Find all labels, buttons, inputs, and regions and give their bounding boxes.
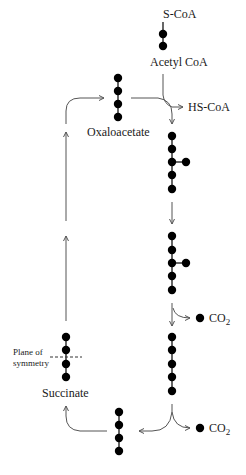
carbon-atom <box>115 434 123 442</box>
co2-label-2: CO2 <box>209 421 230 437</box>
citrate-molecule <box>168 132 190 193</box>
to-succinate-arrow <box>66 406 107 431</box>
carbon-atom <box>115 421 123 429</box>
co2-release-arrow-2 <box>172 404 190 428</box>
co2-carbon-atom <box>196 314 204 322</box>
plane-of-symmetry-label-line2: symmetry <box>13 358 49 368</box>
co2-label-1: CO2 <box>209 311 230 327</box>
carbon-atom <box>182 259 190 267</box>
carbon-atom <box>168 346 176 354</box>
carbon-atom <box>159 30 167 38</box>
carbon-atom <box>114 100 122 108</box>
carbon-atom <box>168 259 176 267</box>
co2-carbon-atom <box>196 424 204 432</box>
isocitrate-molecule <box>168 232 190 294</box>
carbon-atom <box>168 373 176 381</box>
s-coa-label: S-CoA <box>163 7 197 21</box>
carbon-atom <box>168 387 176 395</box>
succinate-molecule: Plane of symmetry Succinate <box>13 333 89 400</box>
carbon-atom <box>168 246 176 254</box>
carbon-atom <box>115 408 123 416</box>
carbon-atom <box>168 171 176 179</box>
carbon-atom <box>182 158 190 166</box>
carbon-atom <box>168 132 176 140</box>
alpha-ketoglutarate-molecule <box>168 333 176 395</box>
carbon-atom <box>114 113 122 121</box>
hs-coa-label: HS-CoA <box>188 100 230 114</box>
carbon-atom <box>168 185 176 193</box>
acetyl-coa-molecule: S-CoA Acetyl CoA <box>150 7 208 69</box>
oxaloacetate-label: Oxaloacetate <box>87 125 150 139</box>
carbon-atom <box>62 373 70 381</box>
carbon-atom <box>115 447 123 455</box>
citric-acid-cycle-diagram: S-CoA Acetyl CoA HS-CoA Oxaloacetate <box>0 0 246 475</box>
carbon-atom <box>168 333 176 341</box>
to-oxaloacetate-arrow <box>66 98 104 124</box>
carbon-atom <box>159 42 167 50</box>
carbon-atom <box>168 360 176 368</box>
carbon-atom <box>62 360 70 368</box>
carbon-atom <box>168 272 176 280</box>
hs-coa-release-arrow <box>163 74 183 107</box>
carbon-atom <box>114 74 122 82</box>
carbon-atom <box>168 158 176 166</box>
acetyl-coa-label: Acetyl CoA <box>150 55 208 69</box>
carbon-atom <box>168 232 176 240</box>
carbon-atom <box>62 333 70 341</box>
carbon-atom <box>168 286 176 294</box>
plane-of-symmetry-label-line1: Plane of <box>13 347 43 357</box>
to-succinyl-coa-arrow <box>139 412 172 431</box>
co2-release-arrow-1 <box>173 308 190 318</box>
succinyl-coa-molecule <box>115 408 123 455</box>
succinate-label: Succinate <box>42 386 89 400</box>
carbon-atom <box>168 145 176 153</box>
oxaloacetate-molecule: Oxaloacetate <box>87 74 150 139</box>
carbon-atom <box>62 346 70 354</box>
carbon-atom <box>114 87 122 95</box>
